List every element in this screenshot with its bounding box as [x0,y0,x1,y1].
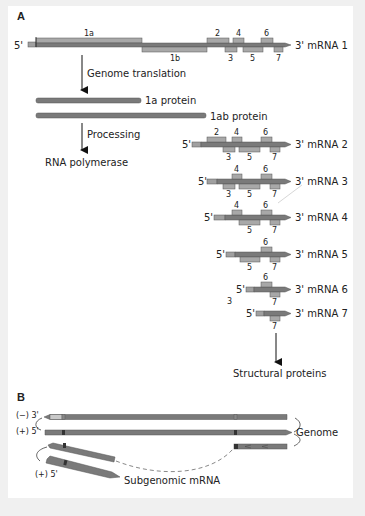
mrna-3-label: 3' mRNA 3 [295,176,348,187]
protein-1a-label: 1a protein [145,95,196,106]
orf-4-label: 4 [236,29,241,38]
svg-text:7: 7 [272,322,277,331]
svg-text:6: 6 [263,128,268,137]
mrna-4-label: 3' mRNA 4 [295,212,348,223]
orf-6-label: 6 [264,29,269,38]
svg-text:7: 7 [272,190,277,199]
orf-7 [274,47,283,52]
mrna-3: 5' 4 6 3 5 7 3' mRNA 3 [198,165,348,203]
genome-label: Genome [296,427,338,438]
svg-text:5': 5' [246,308,255,319]
mrna-5-label: 3' mRNA 5 [295,249,348,260]
svg-text:6: 6 [263,238,268,247]
svg-text:7: 7 [272,226,277,235]
mrna-4: 5' 4 6 5 7 3' mRNA 4 [204,201,348,235]
protein-1a-bar [36,98,141,103]
svg-text:5': 5' [182,139,191,150]
svg-text:4: 4 [234,165,239,174]
orf-5 [243,47,263,52]
stray-number: 3 [227,297,232,306]
orf-6 [261,38,273,43]
svg-text:5: 5 [247,226,252,235]
mrna-5: 5' 6 5 7 3' mRNA 5 [216,238,348,272]
coronavirus-genome-diagram: A 5' 1a 1b 2 4 6 3 5 7 3' mRNA 1 Genome … [0,0,365,516]
svg-text:3: 3 [226,190,231,199]
mrna-2-label: 3' mRNA 2 [295,139,348,150]
svg-text:6: 6 [263,165,268,174]
orf-5-label: 5 [250,54,255,63]
translation-label: Genome translation [87,68,186,79]
svg-text:5': 5' [204,212,213,223]
plus-sub-label: (+) 5' [35,470,58,479]
mrna-7-label: 3' mRNA 7 [295,308,348,319]
mrna-6-label: 3' mRNA 6 [295,284,348,295]
orf-2 [207,38,229,43]
svg-text:5: 5 [247,263,252,272]
template-switch-path [116,449,233,472]
subgenomic-mrna-label: Subgenomic mRNA [124,475,220,486]
svg-text:7: 7 [272,263,277,272]
mrna-1: 5' 1a 1b 2 4 6 3 5 7 3' mRNA 1 [14,29,348,63]
svg-text:5': 5' [236,284,245,295]
mrna-2: 5' 2 4 6 3 5 7 3' mRNA 2 [182,128,348,162]
orf-7-label: 7 [276,54,281,63]
protein-1ab-label: 1ab protein [210,111,268,122]
orf-2-label: 2 [215,29,220,38]
protein-1ab-bar [36,113,206,118]
orf-1a [36,38,142,43]
svg-text:3: 3 [226,153,231,162]
svg-text:5': 5' [198,176,207,187]
mrna-1-label: 3' mRNA 1 [295,40,348,51]
minus-strand [44,415,287,420]
svg-text:6: 6 [263,273,268,282]
svg-text:5: 5 [247,153,252,162]
svg-text:7: 7 [272,298,277,307]
processing-label: Processing [87,129,140,140]
svg-text:5: 5 [247,190,252,199]
mrna-7: 5' 7 3' mRNA 7 [246,308,348,331]
negative-subgenomic-fragment [234,444,287,449]
plus-strand-label: (+) 5' [16,427,39,436]
orf-1b-label: 1b [170,54,180,63]
genome-strand [36,43,291,47]
svg-text:5': 5' [216,249,225,260]
panel-b-label: B [17,391,25,403]
panel-a-label: A [17,10,25,22]
orf-1b [142,47,207,52]
polymerase-label: RNA polymerase [45,157,128,168]
orf-3-label: 3 [228,54,233,63]
svg-text:4: 4 [234,128,239,137]
panel-b-diagram: (−) 3' (+) 5' Genome (+) 5' Subgenomic m… [16,411,338,486]
svg-text:2: 2 [214,128,219,137]
orf-4 [233,38,244,43]
svg-text:6: 6 [263,201,268,210]
minus-strand-label: (−) 3' [16,411,39,420]
svg-text:7: 7 [272,153,277,162]
svg-text:4: 4 [234,201,239,210]
mrna-6: 5' 6 7 3 3' mRNA 6 [227,273,348,307]
plus-strand [45,430,292,435]
five-prime-label: 5' [14,40,23,51]
structural-proteins-label: Structural proteins [233,368,326,379]
orf-3 [225,47,237,52]
orf-1a-label: 1a [84,29,94,38]
